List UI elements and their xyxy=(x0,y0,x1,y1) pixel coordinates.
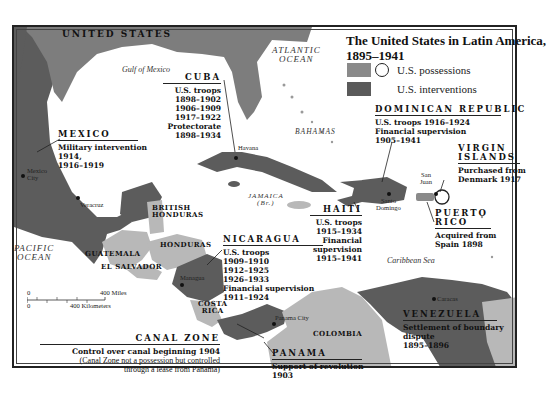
label-veracruz: Veracruz xyxy=(80,202,103,209)
legend-interventions: U.S. interventions xyxy=(347,82,477,96)
annotation-puerto-rico: PUERTO RICO Acquired from Spain 1898 xyxy=(435,209,491,249)
label-costa-rica: COSTARICA xyxy=(198,300,227,315)
annotation-nicaragua: NICARAGUA U.S. troops 1909–1910 1912–192… xyxy=(223,235,323,302)
havana-dot xyxy=(234,156,238,160)
possession-circle-icon xyxy=(375,63,389,77)
annotation-cuba: CUBA U.S. troops 1898–1902 1906–1909 191… xyxy=(163,73,221,140)
managua-dot xyxy=(180,283,184,287)
scale-miles-label: 400 Miles xyxy=(100,290,127,297)
san-juan-dot xyxy=(434,192,438,196)
label-bahamas: BAHAMAS xyxy=(295,128,336,136)
title-line-1: The United States in Latin America, xyxy=(346,33,546,48)
label-mexico-city: MexicoCity xyxy=(27,168,47,182)
label-panama-city: Panama City xyxy=(275,315,309,322)
map-title: The United States in Latin America, 1895… xyxy=(346,33,546,63)
label-santo-domingo: SantoDomingo xyxy=(376,198,401,212)
panama-city-dot xyxy=(272,322,276,326)
santo-domingo-dot xyxy=(387,192,391,196)
label-san-juan: SanJuan xyxy=(420,172,432,186)
label-colombia: COLOMBIA xyxy=(313,330,362,337)
label-honduras: HONDURAS xyxy=(160,241,212,248)
possession-swatch xyxy=(347,63,371,77)
annotation-mexico: MEXICO Military intervention 1914, 1916–… xyxy=(58,130,138,170)
scale-km-label: 400 Kilometers xyxy=(70,303,111,310)
legend-possessions: U.S. possessions xyxy=(347,63,471,77)
label-el-salvador: EL SALVADOR xyxy=(101,263,162,270)
title-line-2: 1895–1941 xyxy=(346,48,546,63)
label-united-states: UNITED STATES xyxy=(62,30,172,39)
mexico-city-dot xyxy=(21,174,25,178)
annotation-canal-zone: CANAL ZONE Control over canal beginning … xyxy=(40,334,220,374)
annotation-virgin-islands: VIRGIN ISLANDS Purchased from Denmark 19… xyxy=(458,144,520,184)
label-guatemala: GUATEMALA xyxy=(85,250,141,257)
annotation-venezuela: VENEZUELA Settlement of boundary dispute… xyxy=(403,310,497,350)
label-managua: Managua xyxy=(180,275,205,282)
scale-miles-zero: 0 xyxy=(27,290,30,297)
scale-km-zero: 0 xyxy=(27,303,30,310)
label-jamaica: JAMAICA(Br.) xyxy=(248,193,284,208)
label-havana: Havana xyxy=(238,145,258,152)
veracruz-dot xyxy=(76,196,80,200)
label-british-honduras: BRITISHHONDURAS xyxy=(152,204,204,219)
annotation-panama: PANAMA Support of revolution 1903 xyxy=(272,349,362,380)
intervention-swatch xyxy=(347,82,371,96)
label-caracas: Caracas xyxy=(437,296,458,303)
label-caribbean-sea: Caribbean Sea xyxy=(387,257,435,265)
caracas-dot xyxy=(432,297,436,301)
label-pacific-ocean: PACIFICOCEAN xyxy=(14,244,54,263)
scale-bar xyxy=(27,297,107,303)
label-atlantic-ocean: ATLANTICOCEAN xyxy=(272,46,321,65)
annotation-dominican-republic: DOMINICAN REPUBLIC U.S. troops 1916–1924… xyxy=(375,105,501,145)
